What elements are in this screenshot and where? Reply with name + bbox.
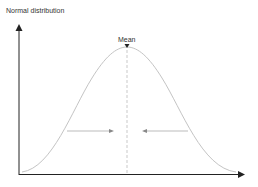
right-arrow [142, 129, 188, 133]
x-axis [19, 171, 245, 178]
left-arrow [67, 129, 114, 133]
y-axis [16, 24, 23, 175]
normal-distribution-diagram [0, 0, 258, 187]
bell-curve [22, 47, 236, 172]
